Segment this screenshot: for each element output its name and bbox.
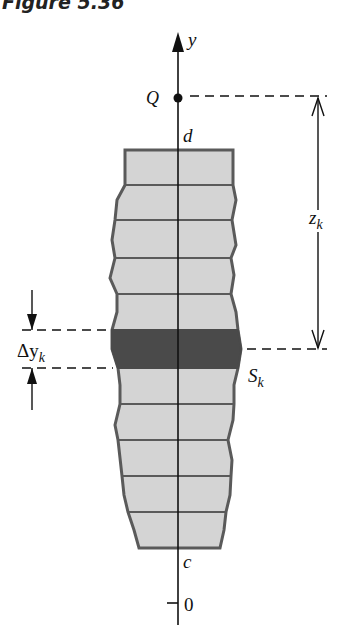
y-axis-label: y [186,29,197,50]
strip-sk [112,330,241,368]
origin-label: 0 [184,594,194,615]
lower-limit-label: c [183,551,192,572]
point-q-dot [174,94,183,103]
y-axis-arrow-icon [172,32,184,52]
dy-up-arrow-icon [27,368,37,384]
upper-limit-label: d [183,125,193,146]
point-q-label: Q [146,88,159,108]
dy-down-arrow-icon [27,314,37,330]
plate-diagram: y Q d c 0 zk Δyk Sk [0,0,354,643]
zk-label: zk [308,207,323,232]
dy-label: Δyk [17,340,46,365]
sk-label: Sk [248,365,265,390]
